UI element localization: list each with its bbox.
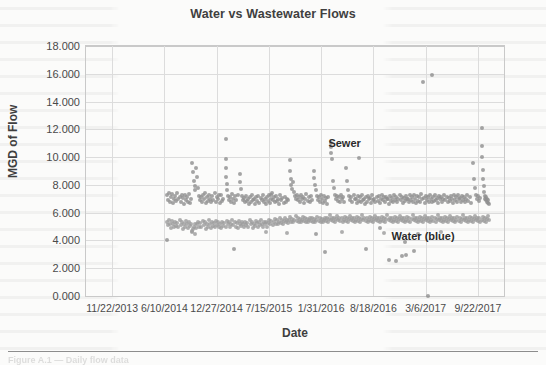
data-point — [312, 176, 316, 180]
data-point — [344, 166, 348, 170]
y-axis-tick-label: 14.000 — [46, 96, 80, 108]
chart-annotation: Water (blue) — [391, 230, 454, 242]
plot-area: 0.0002.0004.0006.0008.00010.00012.00014.… — [85, 45, 505, 297]
data-point — [224, 166, 228, 170]
data-point — [238, 172, 242, 176]
data-point — [323, 250, 327, 254]
y-axis-tick-label: 18.000 — [46, 40, 80, 52]
y-axis-tick-label: 16.000 — [46, 68, 80, 80]
y-axis-tick-label: 10.000 — [46, 151, 80, 163]
data-point — [326, 195, 330, 199]
data-point — [195, 175, 199, 179]
data-point — [313, 183, 317, 187]
data-point — [224, 137, 228, 141]
data-point — [387, 258, 391, 262]
data-point — [342, 200, 346, 204]
data-point — [478, 196, 482, 200]
gridline-horizontal — [86, 74, 504, 75]
x-axis-tick-label: 7/15/2015 — [246, 302, 293, 314]
data-point — [224, 175, 228, 179]
data-point — [225, 188, 229, 192]
gridline-horizontal — [86, 129, 504, 130]
data-point — [472, 177, 476, 181]
x-axis-tick-label: 11/22/2013 — [86, 302, 138, 314]
data-point — [314, 232, 318, 236]
gridline-vertical — [112, 46, 113, 296]
data-point — [426, 294, 430, 298]
x-axis-tick-label: 3/6/2017 — [405, 302, 446, 314]
data-point — [430, 73, 434, 77]
data-point — [404, 253, 408, 257]
data-point — [192, 179, 196, 183]
data-point — [165, 238, 169, 242]
data-point — [468, 195, 472, 199]
x-axis-tick-label: 12/27/2014 — [190, 302, 243, 314]
data-point — [482, 184, 486, 188]
data-point — [394, 259, 398, 263]
data-point — [341, 195, 345, 199]
data-point — [325, 202, 329, 206]
data-point — [264, 230, 268, 234]
page-divider-rule — [8, 351, 538, 352]
figure-caption: Figure A.1 — Daily flow data — [8, 355, 129, 365]
data-point — [288, 158, 292, 162]
data-point — [188, 201, 192, 205]
data-point — [473, 186, 477, 190]
data-point — [194, 166, 198, 170]
data-point — [330, 157, 334, 161]
data-point — [238, 180, 242, 184]
data-point — [285, 231, 289, 235]
data-point — [288, 169, 292, 173]
y-axis-tick-label: 6.000 — [52, 207, 80, 219]
x-axis-tick-label: 8/18/2016 — [350, 302, 397, 314]
gridline-horizontal — [86, 46, 504, 47]
data-point — [481, 168, 485, 172]
data-point — [232, 247, 236, 251]
data-point — [225, 182, 229, 186]
data-point — [329, 151, 333, 155]
gridline-vertical — [426, 46, 427, 296]
chart-title: Water vs Wastewater Flows — [0, 7, 546, 21]
x-axis-tick-label: 6/10/2014 — [141, 302, 188, 314]
data-point — [487, 218, 491, 222]
data-point — [412, 249, 416, 253]
data-point — [480, 126, 484, 130]
x-axis-title: Date — [85, 326, 505, 340]
data-point — [314, 188, 318, 192]
data-point — [269, 193, 273, 197]
data-point — [224, 157, 228, 161]
data-point — [345, 179, 349, 183]
y-axis-tick-label: 0.000 — [52, 290, 80, 302]
data-point — [239, 187, 243, 191]
gridline-horizontal — [86, 268, 504, 269]
y-axis-tick-label: 4.000 — [52, 234, 80, 246]
gridline-horizontal — [86, 157, 504, 158]
gridline-horizontal — [86, 102, 504, 103]
chart-annotation: Sewer — [328, 137, 360, 149]
data-point — [346, 188, 350, 192]
gridline-horizontal — [86, 185, 504, 186]
gridline-vertical — [217, 46, 218, 296]
data-point — [487, 202, 491, 206]
data-point — [364, 247, 368, 251]
data-point — [480, 155, 484, 159]
data-point — [310, 198, 314, 202]
x-axis-tick-label: 1/31/2016 — [298, 302, 345, 314]
data-point — [340, 230, 344, 234]
data-point — [480, 144, 484, 148]
data-point — [382, 231, 386, 235]
data-point — [182, 202, 186, 206]
data-point — [481, 177, 485, 181]
data-point — [286, 198, 290, 202]
data-point — [469, 201, 473, 205]
data-point — [332, 186, 336, 190]
y-axis-tick-label: 12.000 — [46, 123, 80, 135]
data-point — [191, 170, 195, 174]
data-point — [421, 80, 425, 84]
gridline-vertical — [321, 46, 322, 296]
gridline-vertical — [373, 46, 374, 296]
data-point — [190, 161, 194, 165]
y-axis-tick-label: 2.000 — [52, 262, 80, 274]
gridline-vertical — [478, 46, 479, 296]
data-point — [357, 156, 361, 160]
